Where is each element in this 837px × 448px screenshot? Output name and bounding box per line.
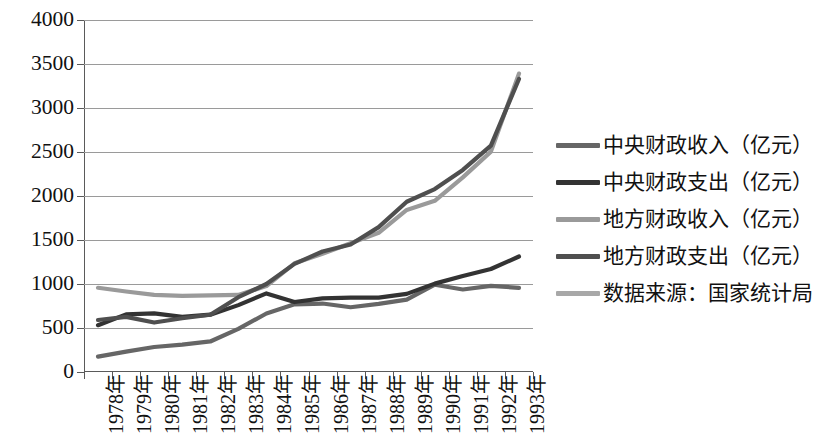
x-axis-tick-label: 1978年: [106, 374, 126, 434]
legend-item-label: 地方财政支出（亿元）: [603, 246, 813, 267]
y-axis-tick-label: 2500: [31, 141, 74, 163]
fiscal-line-chart: 05001000150020002500300035004000 1978年19…: [0, 0, 837, 448]
legend-item-label: 地方财政收入（亿元）: [603, 209, 813, 230]
y-axis-tick: [77, 196, 84, 197]
legend-item-label: 数据来源：国家统计局: [603, 283, 813, 304]
x-axis-tick-label: 1982年: [218, 374, 238, 434]
series-lines: [84, 20, 533, 372]
x-axis-tick-label: 1987年: [359, 374, 379, 434]
legend-line-swatch: [556, 143, 600, 148]
legend-item-label: 中央财政支出（亿元）: [603, 172, 813, 193]
series-line: [98, 79, 519, 323]
y-axis-tick: [77, 240, 84, 241]
y-axis-tick-label: 3000: [31, 97, 74, 119]
x-axis-tick-label: 1986年: [331, 374, 351, 434]
x-axis-tick-label: 1991年: [471, 374, 491, 434]
x-axis-tick-label: 1984年: [274, 374, 294, 434]
y-axis-tick: [77, 328, 84, 329]
series-line: [98, 257, 519, 326]
y-axis-labels: 05001000150020002500300035004000: [0, 20, 84, 372]
legend-item[interactable]: 地方财政收入（亿元）: [556, 201, 834, 238]
legend-line-swatch: [556, 254, 600, 259]
legend-item[interactable]: 中央财政收入（亿元）: [556, 127, 834, 164]
y-axis-tick-label: 1000: [31, 273, 74, 295]
y-axis-tick-label: 3500: [31, 53, 74, 75]
y-axis-tick: [77, 108, 84, 109]
legend-line-swatch: [556, 180, 600, 185]
legend-line-swatch: [556, 217, 600, 222]
y-axis-tick: [77, 372, 84, 373]
y-axis-tick: [77, 284, 84, 285]
x-axis-tick-label: 1992年: [499, 374, 519, 434]
x-axis-tick-label: 1979年: [134, 374, 154, 434]
y-axis-tick-label: 4000: [31, 9, 74, 31]
legend-item[interactable]: 中央财政支出（亿元）: [556, 164, 834, 201]
y-axis-tick: [77, 64, 84, 65]
y-axis-tick-label: 1500: [31, 229, 74, 251]
y-axis-tick: [77, 152, 84, 153]
x-axis-tick-label: 1983年: [246, 374, 266, 434]
x-axis-labels: 1978年1979年1980年1981年1982年1983年1984年1985年…: [84, 374, 533, 448]
x-axis-tick-label: 1989年: [415, 374, 435, 434]
plot-area: [84, 20, 533, 372]
x-axis-tick-label: 1988年: [387, 374, 407, 434]
y-axis-tick-label: 2000: [31, 185, 74, 207]
x-axis-tick-label: 1993年: [527, 374, 547, 434]
y-axis-tick-label: 0: [63, 361, 74, 383]
legend-item[interactable]: 数据来源：国家统计局: [556, 275, 834, 312]
legend-line-swatch: [556, 291, 600, 296]
y-axis-tick-label: 500: [42, 317, 74, 339]
x-axis-tick-label: 1980年: [162, 374, 182, 434]
x-axis-tick-label: 1981年: [190, 374, 210, 434]
x-axis-tick-label: 1985年: [302, 374, 322, 434]
legend-item-label: 中央财政收入（亿元）: [603, 135, 813, 156]
series-line: [98, 74, 519, 296]
legend-item[interactable]: 地方财政支出（亿元）: [556, 238, 834, 275]
chart-legend: 中央财政收入（亿元）中央财政支出（亿元）地方财政收入（亿元）地方财政支出（亿元）…: [556, 127, 834, 312]
x-axis-tick-label: 1990年: [443, 374, 463, 434]
y-axis-tick: [77, 20, 84, 21]
